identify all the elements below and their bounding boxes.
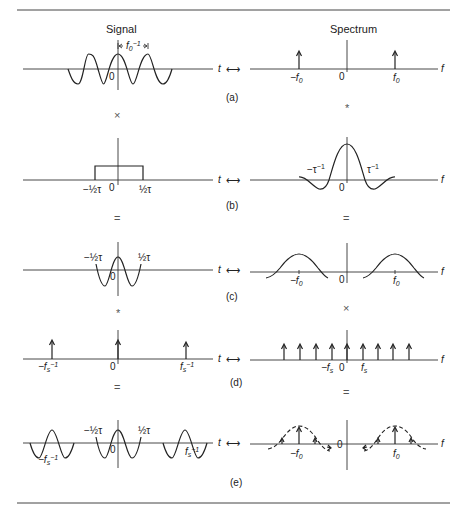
tick-pos-inv-fs: fs−1 [180, 361, 194, 373]
row-label-c: (c) [226, 291, 238, 302]
spectrum-column-title: Spectrum [330, 23, 377, 35]
tick-neg-inv-fs: −fs−1 [38, 361, 58, 373]
row-label-e: (e) [230, 477, 242, 488]
convolve-operator: * [345, 102, 350, 114]
tick-pos-inv-tau: τ−1 [367, 163, 379, 175]
tick-pos-fs: fs [361, 362, 368, 374]
row-label-a: (a) [226, 92, 238, 103]
origin-label: 0 [110, 271, 116, 282]
delta-impulse-pos-f0 [393, 51, 398, 69]
tick-neg-f0: −f0 [290, 275, 303, 287]
multiply-operator: × [114, 109, 120, 121]
tick-neg-half-tau: −½τ [84, 425, 102, 436]
signal-column-title: Signal [106, 23, 137, 35]
equals-operator: = [343, 386, 349, 398]
frequency-axis-label: f [441, 174, 445, 185]
tick-pos-f0: f0 [393, 275, 400, 287]
transform-pair-symbol: ⟷ [226, 64, 240, 75]
origin-label: 0 [109, 71, 115, 82]
tick-pos-half-tau: ½τ [138, 425, 150, 436]
origin-label: 0 [110, 361, 116, 372]
convolve-operator: * [116, 307, 121, 319]
tick-neg-fs: −fs [321, 362, 334, 374]
tick-neg-half-tau: −½τ [84, 252, 102, 263]
tick-pos-inv-fs: fs−1 [185, 446, 199, 458]
impulse-train-frequency [282, 344, 412, 360]
multiply-operator: × [343, 302, 349, 314]
tick-pos-f0: f0 [393, 72, 400, 84]
windowed-cosine-copy-center [96, 430, 141, 458]
tick-neg-inv-fs: −fs−1 [38, 454, 58, 466]
frequency-axis-label: f [441, 266, 445, 277]
row-label-d: (d) [230, 377, 242, 388]
equals-operator: = [343, 212, 349, 224]
transform-pair-symbol: ⟷ [226, 438, 240, 449]
tick-neg-f0: −f0 [290, 448, 303, 460]
tick-pos-half-tau: ½τ [138, 252, 150, 263]
tick-pos-f0: f0 [393, 448, 400, 460]
origin-label: 0 [339, 362, 345, 373]
time-axis-label: t [218, 264, 222, 275]
transform-pair-symbol: ⟷ [226, 354, 240, 365]
row-c: −½τ 0 ½τ t ⟷ −f0 0 f0 f (c) * × [23, 242, 445, 319]
transform-pair-symbol: ⟷ [226, 265, 240, 276]
origin-label: 0 [109, 182, 115, 193]
time-axis-label: t [218, 353, 222, 364]
origin-label: 0 [337, 439, 343, 450]
sampled-impulses [280, 427, 413, 450]
time-axis-label: t [218, 174, 222, 185]
origin-label: 0 [339, 274, 345, 285]
equals-operator: = [114, 212, 120, 224]
row-e: −fs−1 −½τ 0 ½τ fs−1 t ⟷ −f0 0 f0 f (e) [23, 420, 445, 488]
row-a: 0 f0−1 t ⟷ −f0 0 f0 f (a) × * [23, 40, 445, 121]
origin-label: 0 [339, 182, 345, 193]
transform-pair-symbol: ⟷ [226, 175, 240, 186]
origin-label: 0 [110, 444, 116, 455]
tick-neg-f0: −f0 [290, 72, 303, 84]
time-axis-label: t [218, 63, 222, 74]
rectangular-window [95, 166, 143, 180]
small-neg-impulse [327, 445, 331, 450]
equals-operator: = [114, 381, 120, 393]
delta-impulse-neg-f0 [297, 51, 302, 69]
row-b: −½τ 0 ½τ t ⟷ −τ−1 0 τ−1 f (b) = = [23, 137, 445, 224]
frequency-axis-label: f [441, 63, 445, 74]
row-label-b: (b) [226, 200, 238, 211]
origin-label: 0 [339, 71, 345, 82]
windowed-cosine-burst [96, 257, 141, 286]
frequency-axis-label: f [441, 354, 445, 365]
tick-neg-inv-tau: −τ−1 [307, 163, 325, 175]
period-marker-label: f0−1 [126, 40, 141, 52]
tick-neg-half-tau: −½τ [83, 184, 101, 195]
row-d: −fs−1 0 fs−1 t ⟷ −fs 0 fs f (d) = = [23, 330, 445, 398]
small-neg-impulse [363, 445, 367, 450]
time-axis-label: t [218, 437, 222, 448]
frequency-axis-label: f [441, 438, 445, 449]
signal-spectrum-figure: Signal Spectrum 0 f0−1 t ⟷ −f0 0 f0 [0, 0, 466, 515]
tick-pos-half-tau: ½τ [139, 184, 151, 195]
impulse-train-time [50, 340, 189, 359]
